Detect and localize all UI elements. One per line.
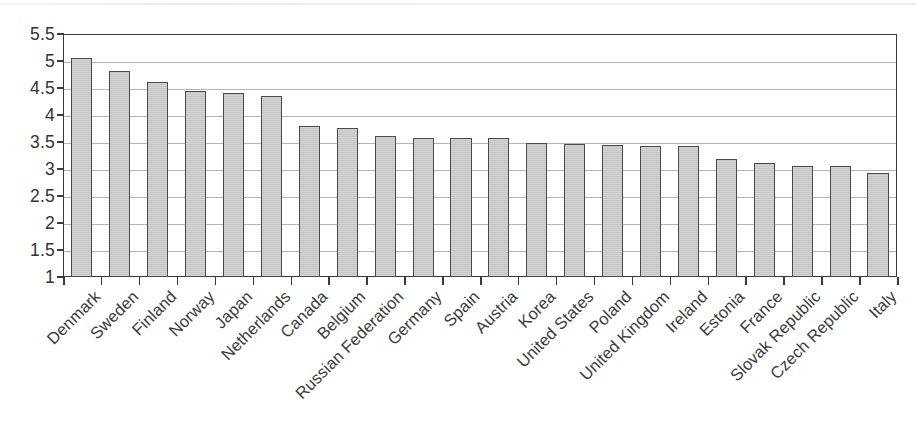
y-axis-tick-label: 5	[45, 51, 55, 72]
x-axis-tick-mark	[821, 277, 823, 285]
y-axis: 5.554.543.532.521.51	[0, 34, 55, 277]
bar	[109, 71, 130, 277]
x-axis-tick-mark	[556, 277, 558, 285]
y-axis-tick-label: 1.5	[30, 240, 55, 261]
bars-layer	[63, 34, 897, 277]
bar	[185, 91, 206, 277]
x-axis-tick-mark	[783, 277, 785, 285]
x-axis-tick-mark	[253, 277, 255, 285]
y-axis-tick-label: 2.5	[30, 186, 55, 207]
x-axis-tick-mark	[291, 277, 293, 285]
bar	[716, 159, 737, 277]
bar	[678, 146, 699, 277]
bar-chart: 5.554.543.532.521.51 DenmarkSwedenFinlan…	[0, 0, 916, 448]
bar	[450, 138, 471, 277]
y-axis-tick-label: 3.5	[30, 132, 55, 153]
bar	[602, 145, 623, 277]
x-axis-tick-mark	[632, 277, 634, 285]
x-axis-tick-mark	[594, 277, 596, 285]
y-axis-tick-label: 2	[45, 213, 55, 234]
x-axis-tick-mark	[480, 277, 482, 285]
bar	[488, 138, 509, 277]
x-axis-tick-mark	[518, 277, 520, 285]
y-axis-tick-label: 4.5	[30, 78, 55, 99]
bar	[564, 144, 585, 277]
bar	[261, 96, 282, 277]
x-axis-tick-mark	[897, 277, 899, 285]
bar	[299, 126, 320, 277]
bar	[867, 173, 888, 277]
bar	[413, 138, 434, 277]
y-axis-tick-label: 3	[45, 159, 55, 180]
x-axis-tick-mark	[670, 277, 672, 285]
bar	[147, 82, 168, 278]
x-axis-tick-mark	[139, 277, 141, 285]
x-axis-tick-mark	[101, 277, 103, 285]
bar	[526, 143, 547, 278]
bar	[337, 128, 358, 277]
bar	[792, 166, 813, 277]
x-axis-tick-mark	[708, 277, 710, 285]
x-axis-tick-mark	[442, 277, 444, 285]
x-axis-tick-mark	[63, 277, 65, 285]
x-axis-ticks	[63, 277, 897, 285]
y-axis-tick-label: 1	[45, 267, 55, 288]
y-axis-tick-label: 4	[45, 105, 55, 126]
x-axis-labels: DenmarkSwedenFinlandNorwayJapanNetherlan…	[63, 287, 897, 437]
x-axis-tick-mark	[366, 277, 368, 285]
scan-artifact-line	[0, 3, 916, 5]
x-axis-tick-mark	[328, 277, 330, 285]
x-axis-tick-mark	[215, 277, 217, 285]
bar	[754, 163, 775, 278]
bar	[640, 146, 661, 277]
bar	[223, 93, 244, 277]
bar	[71, 58, 92, 277]
x-axis-tick-mark	[177, 277, 179, 285]
x-axis-tick-mark	[404, 277, 406, 285]
x-axis-tick-mark	[745, 277, 747, 285]
y-axis-tick-label: 5.5	[30, 24, 55, 45]
bar	[830, 166, 851, 277]
bar	[375, 136, 396, 278]
x-axis-tick-mark	[859, 277, 861, 285]
